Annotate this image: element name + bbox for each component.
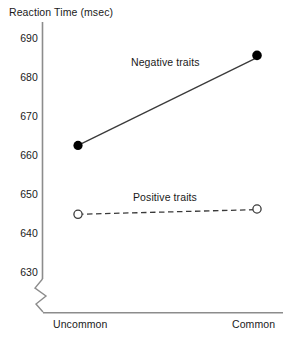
x-tick-label-uncommon: Uncommon <box>53 318 107 330</box>
negative-traits-label: Negative traits <box>131 56 200 68</box>
positive-traits-line <box>78 210 257 215</box>
x-tick-label-common: Common <box>232 318 275 330</box>
axis-break-zigzag <box>35 279 46 312</box>
negative-traits-point-common <box>252 51 262 61</box>
plot-area <box>0 0 283 344</box>
negative-traits-point-uncommon <box>73 141 82 150</box>
negative-traits-line <box>78 58 257 146</box>
positive-traits-point-uncommon <box>74 210 82 218</box>
reaction-time-line-chart: Reaction Time (msec) 690 680 670 660 650… <box>0 0 283 344</box>
positive-traits-point-common <box>253 205 261 213</box>
positive-traits-label: Positive traits <box>133 191 197 203</box>
